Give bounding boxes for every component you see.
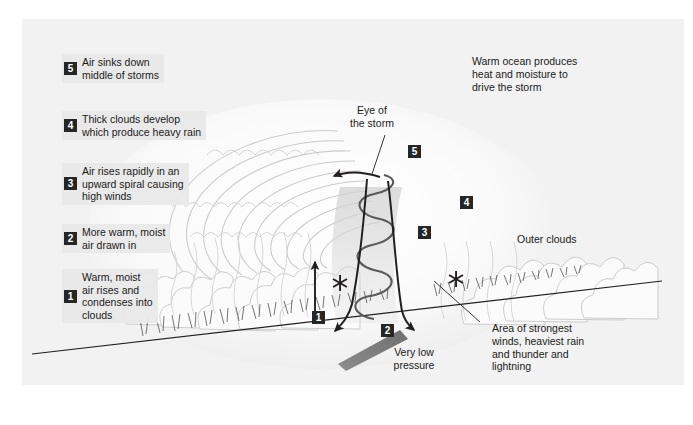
callout-step-1: 1 Warm, moist air rises and condenses in… bbox=[62, 269, 158, 323]
diagram-marker-1: 1 bbox=[312, 311, 325, 324]
callout-marker-5: 5 bbox=[64, 62, 77, 75]
callout-text-4: Thick clouds develop which produce heavy… bbox=[82, 113, 201, 138]
diagram-marker-5: 5 bbox=[408, 145, 421, 158]
diagram-marker-2: 2 bbox=[381, 324, 394, 337]
callout-marker-2: 2 bbox=[64, 232, 77, 245]
annotation-outer-clouds: Outer clouds bbox=[517, 233, 577, 246]
callout-step-3: 3 Air rises rapidly in an upward spiral … bbox=[62, 163, 189, 205]
annotation-eye-of-storm: Eye of the storm bbox=[327, 104, 417, 130]
callout-marker-3: 3 bbox=[64, 177, 77, 190]
callout-text-1: Warm, moist air rises and condenses into… bbox=[82, 271, 153, 321]
diagram-marker-4: 4 bbox=[460, 196, 473, 209]
callout-step-5: 5 Air sinks down middle of storms bbox=[62, 54, 164, 83]
annotation-very-low-pressure: Very low pressure bbox=[374, 346, 454, 372]
callout-text-2: More warm, moist air drawn in bbox=[82, 226, 165, 251]
hurricane-diagram-figure: 1 2 3 4 5 5 Air sinks down middle of sto… bbox=[22, 19, 684, 385]
annotation-warm-ocean: Warm ocean produces heat and moisture to… bbox=[472, 55, 577, 93]
callout-marker-1: 1 bbox=[64, 290, 77, 303]
callout-step-2: 2 More warm, moist air drawn in bbox=[62, 224, 170, 253]
callout-step-4: 4 Thick clouds develop which produce hea… bbox=[62, 111, 206, 140]
callout-text-5: Air sinks down middle of storms bbox=[82, 56, 159, 81]
annotation-strongest-winds: Area of strongest winds, heaviest rain a… bbox=[492, 322, 584, 373]
diagram-marker-3: 3 bbox=[418, 226, 431, 239]
callout-marker-4: 4 bbox=[64, 119, 77, 132]
callout-text-3: Air rises rapidly in an upward spiral ca… bbox=[82, 165, 184, 203]
